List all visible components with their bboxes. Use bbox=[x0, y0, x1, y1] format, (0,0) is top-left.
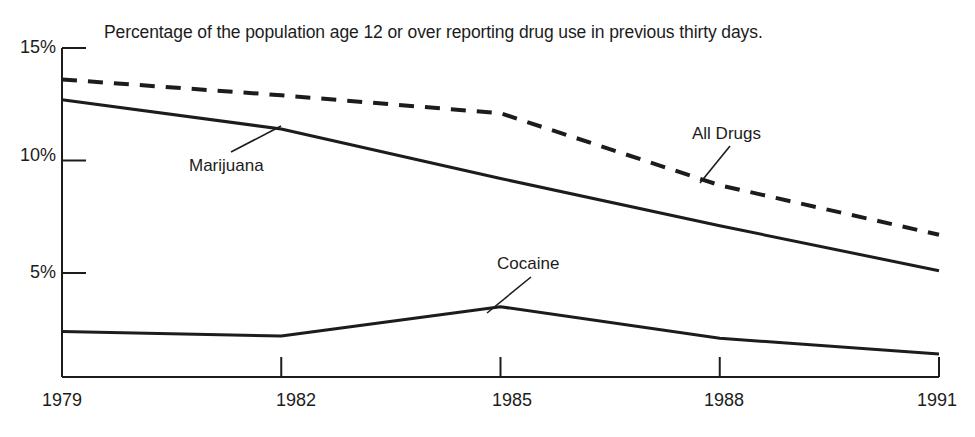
series-line-marijuana bbox=[62, 100, 939, 271]
x-tick-label-1991: 1991 bbox=[899, 390, 975, 411]
y-tick-label-15: 15% bbox=[0, 37, 56, 58]
chart-plot-area bbox=[0, 0, 975, 437]
leader-line-marijuana bbox=[231, 126, 281, 152]
leader-line-all-drugs bbox=[700, 146, 730, 183]
y-tick-label-10: 10% bbox=[0, 145, 56, 166]
series-label-all-drugs: All Drugs bbox=[692, 124, 761, 144]
series-label-marijuana: Marijuana bbox=[189, 156, 264, 176]
x-tick-label-1985: 1985 bbox=[474, 390, 550, 411]
series-label-cocaine: Cocaine bbox=[497, 254, 559, 274]
x-tick-label-1979: 1979 bbox=[24, 390, 100, 411]
drug-use-line-chart: Percentage of the population age 12 or o… bbox=[0, 0, 975, 437]
annotation-leader-lines bbox=[231, 126, 730, 313]
series-line-cocaine bbox=[62, 307, 939, 354]
chart-title: Percentage of the population age 12 or o… bbox=[104, 22, 763, 43]
chart-axes bbox=[62, 48, 939, 377]
y-tick-label-5: 5% bbox=[0, 262, 56, 283]
chart-series bbox=[62, 80, 939, 355]
x-tick-label-1982: 1982 bbox=[258, 390, 334, 411]
x-tick-label-1988: 1988 bbox=[686, 390, 762, 411]
